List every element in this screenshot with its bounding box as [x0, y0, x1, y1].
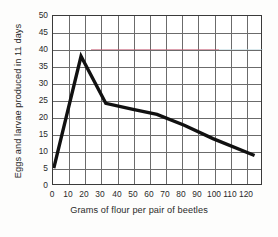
y-tick-label: 45	[28, 28, 48, 36]
y-axis-title: Eggs and larvae produced in 11 days	[13, 11, 23, 191]
chart-figure: Eggs and larvae produced in 11 days 50 4…	[0, 0, 278, 237]
data-series-layer	[53, 16, 261, 184]
y-tick-label: 35	[28, 62, 48, 70]
y-tick-label: 10	[28, 147, 48, 155]
plot-area	[52, 15, 262, 185]
y-axis-tick-labels: 50 45 40 35 30 25 20 15 10 5 0	[26, 15, 48, 185]
y-tick-label: 5	[28, 164, 48, 172]
y-tick-label: 30	[28, 79, 48, 87]
y-tick-label: 50	[28, 11, 48, 19]
y-tick-label: 15	[28, 130, 48, 138]
x-axis-title: Grams of flour per pair of beetles	[0, 205, 278, 215]
y-tick-label: 40	[28, 45, 48, 53]
data-line-eggs-and-larvae	[54, 56, 255, 168]
x-axis-tick-labels: 0 10 20 30 40 50 60 70 80 90 100 110 120	[52, 190, 262, 202]
x-tick-label: 120	[234, 190, 258, 199]
y-tick-label: 0	[28, 181, 48, 189]
y-tick-label: 25	[28, 96, 48, 104]
y-tick-label: 20	[28, 113, 48, 121]
